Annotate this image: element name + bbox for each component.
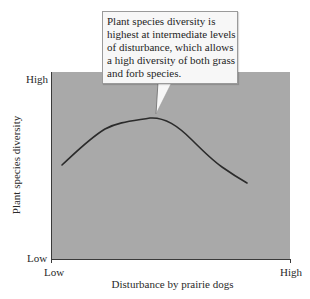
x-axis-line — [51, 259, 291, 260]
callout-line: highest at intermediate levels — [107, 28, 233, 41]
callout-line: a high diversity of both grass — [107, 54, 233, 67]
x-tick-low — [51, 259, 52, 263]
y-axis-low-label: Low — [27, 252, 47, 264]
x-axis-high-label: High — [280, 266, 302, 278]
callout-line: and forb species. — [107, 67, 233, 80]
callout-box: Plant species diversity is highest at in… — [102, 11, 238, 84]
y-axis-high-label: High — [26, 73, 48, 85]
plot-area — [52, 72, 290, 259]
y-axis-line — [51, 72, 52, 260]
y-axis-title: Plant species diversity — [10, 116, 22, 214]
callout-line: Plant species diversity is — [107, 15, 233, 28]
x-tick-high — [290, 259, 291, 263]
x-axis-title: Disturbance by prairie dogs — [0, 278, 310, 290]
callout-line: of disturbance, which allows — [107, 41, 233, 54]
x-axis-low-label: Low — [44, 266, 64, 278]
diversity-disturbance-figure: Plant species diversity is highest at in… — [0, 0, 310, 299]
